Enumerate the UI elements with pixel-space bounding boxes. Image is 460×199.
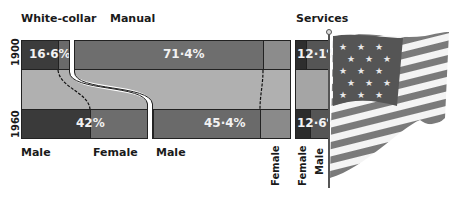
us-flag-icon: ★★★ ★★★ ★★★ ★★★ ★★★ <box>325 28 455 188</box>
svg-text:★: ★ <box>383 54 391 64</box>
svg-text:★: ★ <box>347 78 355 88</box>
male-label-services: Male <box>314 148 325 175</box>
male-label-manual: Male <box>156 146 186 159</box>
svg-text:★: ★ <box>365 54 373 64</box>
male-label-white-collar: Male <box>21 146 51 159</box>
svg-text:★: ★ <box>375 90 383 100</box>
svg-text:★: ★ <box>383 78 391 88</box>
svg-text:★: ★ <box>357 42 365 52</box>
svg-text:★: ★ <box>339 42 347 52</box>
svg-text:★: ★ <box>339 66 347 76</box>
svg-text:★: ★ <box>375 66 383 76</box>
svg-text:★: ★ <box>357 90 365 100</box>
female-label-manual: Female <box>270 145 281 186</box>
female-label-white-collar: Female <box>93 146 138 159</box>
svg-text:★: ★ <box>357 66 365 76</box>
svg-text:★: ★ <box>347 54 355 64</box>
svg-text:★: ★ <box>375 42 383 52</box>
female-label-services: Female <box>297 145 308 186</box>
svg-text:★: ★ <box>365 78 373 88</box>
svg-text:★: ★ <box>339 90 347 100</box>
